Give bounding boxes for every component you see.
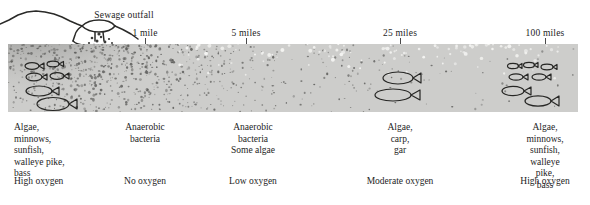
species-list: Anaerobic bacteria xyxy=(125,122,165,145)
zone-recovery-early-species: Anaerobic bacteria Some algae xyxy=(231,122,275,157)
species-list: Anaerobic bacteria Some algae xyxy=(231,122,275,157)
oxygen-status-downstream: High oxygen xyxy=(520,176,569,188)
zone-clean-upstream-species: Algae, minnows, sunfish, walleye pike, b… xyxy=(14,122,65,180)
sewage-outfall-annotation: Sewage outfall xyxy=(94,10,154,21)
water-band xyxy=(8,44,578,112)
water-contents xyxy=(8,44,578,112)
sewage-outfall-diagram: Sewage outfall 1 mile 5 miles 25 miles 1… xyxy=(0,0,590,205)
oxygen-status-recovery-late: Moderate oxygen xyxy=(367,176,434,188)
oxygen-status-upstream: High oxygen xyxy=(14,176,63,188)
species-list: Algae, carp, gar xyxy=(387,122,412,157)
zone-septic-species: Anaerobic bacteria xyxy=(125,122,165,145)
zone-recovery-late-species: Algae, carp, gar xyxy=(387,122,412,157)
oxygen-status-septic: No oxygen xyxy=(124,176,166,188)
shoreline-outfall-drawing xyxy=(0,0,220,50)
species-list: Algae, minnows, sunfish, walleye pike, b… xyxy=(14,122,65,180)
oxygen-status-recovery-early: Low oxygen xyxy=(229,176,277,188)
